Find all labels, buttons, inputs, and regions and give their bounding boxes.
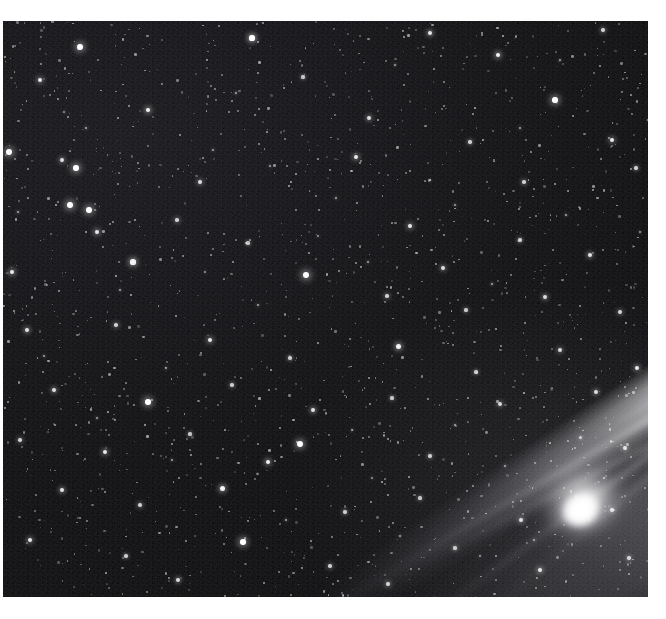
border-bottom [0, 597, 666, 619]
border-top [0, 0, 666, 21]
comet-photograph [3, 21, 648, 597]
night-sky-background [3, 21, 648, 597]
border-right [648, 0, 666, 619]
screenshot-root: Comet with long dust tail over dense sta… [0, 0, 666, 619]
